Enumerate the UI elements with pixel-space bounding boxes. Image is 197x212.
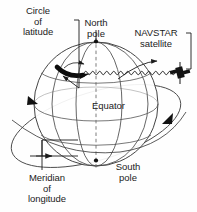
north-pole-point [94,39,98,43]
label-meridian-line1: Meridian [6,173,88,184]
label-north-pole-line1: North [66,18,126,29]
label-navstar-line2: satellite [118,39,194,50]
label-north-pole: North pole [66,18,126,39]
label-meridian-line3: longitude [6,194,88,205]
navstar-satellite-icon [170,62,191,84]
label-circle-of-latitude-line1: Circle [6,6,70,17]
label-south-pole-line2: pole [104,173,152,184]
label-meridian-of-longitude: Meridian of longitude [6,173,88,205]
label-circle-of-latitude: Circle of latitude [6,6,70,38]
label-navstar-satellite: NAVSTAR satellite [118,28,194,49]
navstar-globe-diagram: Circle of latitude North pole NAVSTAR sa… [0,0,197,212]
label-south-pole-line1: South [104,162,152,173]
label-circle-of-latitude-line3: latitude [6,27,70,38]
label-equator: Equator [92,101,125,112]
label-south-pole: South pole [104,162,152,183]
label-north-pole-line2: pole [66,29,126,40]
label-navstar-line1: NAVSTAR [118,28,194,39]
